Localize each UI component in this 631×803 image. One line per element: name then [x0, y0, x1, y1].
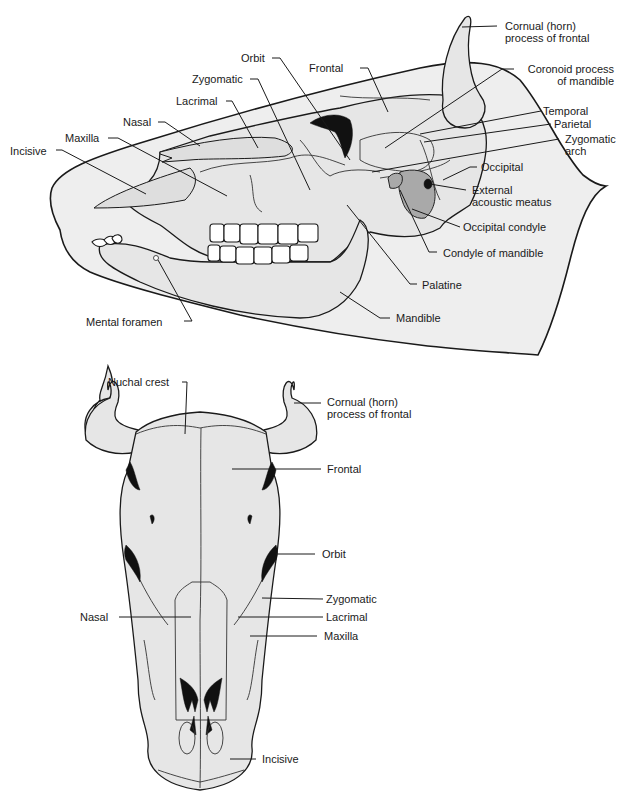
- label-dorsal-maxilla: Maxilla: [324, 630, 358, 642]
- dorsal-horn-right-shape: [262, 382, 317, 454]
- label-lateral-occipital-condyle: Occipital condyle: [463, 221, 546, 233]
- label-lateral-palatine: Palatine: [422, 279, 462, 291]
- label-lateral-coronoid-process: Coronoid process of mandible: [518, 63, 614, 87]
- dorsal-view-skull: [85, 366, 323, 790]
- label-dorsal-frontal: Frontal: [327, 463, 361, 475]
- label-lateral-zygomatic: Zygomatic: [192, 73, 243, 85]
- label-dorsal-cornual-process: Cornual (horn) process of frontal: [327, 396, 411, 420]
- label-lateral-incisive: Incisive: [10, 145, 47, 157]
- label-dorsal-incisive: Incisive: [262, 753, 299, 765]
- label-lateral-lacrimal: Lacrimal: [176, 95, 218, 107]
- label-dorsal-lacrimal: Lacrimal: [326, 611, 368, 623]
- label-lateral-orbit: Orbit: [241, 52, 265, 64]
- label-lateral-external-acoustic-meatus: External acoustic meatus: [472, 184, 551, 208]
- label-dorsal-nasal: Nasal: [80, 611, 108, 623]
- label-dorsal-orbit: Orbit: [322, 548, 346, 560]
- label-lateral-zygomatic-arch: Zygomatic arch: [565, 133, 616, 157]
- bovine-skull-diagram: [0, 0, 631, 803]
- lower-teeth: [208, 245, 308, 264]
- dorsal-horn-left-shape: [85, 382, 140, 454]
- label-lateral-occipital: Occipital: [481, 161, 523, 173]
- label-lateral-mandible: Mandible: [396, 312, 441, 324]
- label-lateral-maxilla: Maxilla: [65, 132, 99, 144]
- label-lateral-condyle-of-mandible: Condyle of mandible: [443, 247, 543, 259]
- upper-teeth: [210, 224, 318, 244]
- label-dorsal-zygomatic: Zygomatic: [326, 593, 377, 605]
- label-lateral-nasal: Nasal: [123, 116, 151, 128]
- label-dorsal-nuchal-crest: Nuchal crest: [108, 376, 169, 388]
- label-lateral-parietal: Parietal: [554, 118, 591, 130]
- label-lateral-temporal: Temporal: [543, 105, 588, 117]
- label-lateral-cornual-process: Cornual (horn) process of frontal: [505, 20, 589, 44]
- mental-foramen-hole: [154, 256, 159, 261]
- label-lateral-frontal: Frontal: [309, 62, 343, 74]
- label-lateral-mental-foramen: Mental foramen: [86, 316, 162, 328]
